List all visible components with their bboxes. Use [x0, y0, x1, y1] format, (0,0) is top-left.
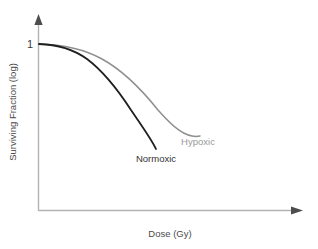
series-label-hypoxic: Hypoxic — [181, 136, 215, 147]
x-axis-arrowhead — [291, 206, 303, 214]
y-axis-arrowhead — [34, 14, 42, 25]
y-axis-tick-label-1: 1 — [27, 38, 33, 50]
curve-hypoxic — [39, 44, 200, 136]
y-axis-title: Surviving Fraction (log) — [7, 63, 18, 161]
series-label-normoxic: Normoxic — [136, 153, 176, 164]
chart-canvas: 1 Surviving Fraction (log) Dose (Gy) Hyp… — [0, 0, 318, 249]
cell-survival-chart: 1 Surviving Fraction (log) Dose (Gy) Hyp… — [0, 0, 318, 249]
curve-normoxic — [39, 44, 156, 149]
x-axis-title: Dose (Gy) — [148, 228, 191, 239]
